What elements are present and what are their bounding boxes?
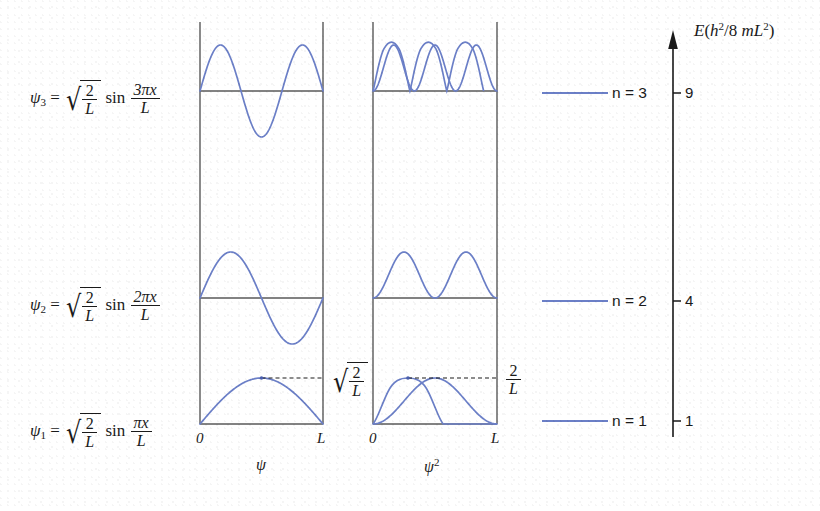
- psi-panel-tick-0: 0: [196, 430, 204, 447]
- psi3-symbol: ψ: [30, 88, 41, 107]
- psi3-index: 3: [41, 96, 47, 108]
- psi-panel-axis-title: ψ: [256, 456, 266, 474]
- psi-amplitude-den: L: [349, 382, 364, 399]
- psi-squared-axis-exp: 2: [434, 456, 440, 468]
- psi-squared-amplitude-num: 2: [506, 362, 521, 380]
- psi1-radical: √2L: [64, 413, 101, 451]
- psi-amplitude-num: 2: [349, 364, 364, 382]
- energy-level-label-n3: n = 3: [612, 84, 647, 102]
- psi1-equals: =: [50, 421, 60, 440]
- equation-psi3: ψ3 = √2L sin 3πxL: [30, 80, 161, 118]
- energy-axis: [668, 30, 681, 437]
- psi3-argument: 3πxL: [131, 81, 160, 117]
- equation-psi1: ψ1 = √2L sin πxL: [30, 413, 153, 451]
- equation-psi2: ψ2 = √2L sin 2πxL: [30, 287, 161, 325]
- psi1-squared-curve-fit: [373, 378, 497, 424]
- psi3-equals: =: [50, 88, 60, 107]
- psi1-trig: sin: [105, 421, 125, 440]
- psi3-radical-den: L: [82, 100, 97, 117]
- energy-axis-title-L: L: [754, 21, 763, 40]
- energy-level-label-n1: n = 1: [612, 412, 647, 430]
- psi-squared-panel-tick-0: 0: [369, 430, 377, 447]
- psi-squared-panel-frame: [373, 22, 497, 424]
- psi3-radical-num: 2: [82, 82, 97, 100]
- energy-axis-title-E: E: [694, 21, 704, 40]
- psi-panel-tick-L: L: [317, 430, 325, 447]
- energy-tick-label-9: 9: [685, 84, 693, 101]
- psi2-index: 2: [41, 303, 47, 315]
- energy-axis-title-h: h: [710, 21, 719, 40]
- psi1-arg-num: πx: [131, 414, 152, 432]
- psi1-radical-den: L: [82, 433, 97, 450]
- psi3-radical: √2L: [64, 80, 101, 118]
- psi2-argument: 2πxL: [131, 288, 160, 324]
- psi2-arg-num: 2πx: [131, 288, 160, 306]
- psi2-symbol: ψ: [30, 295, 41, 314]
- psi1-radical-num: 2: [82, 415, 97, 433]
- psi3-arg-num: 3πx: [131, 81, 160, 99]
- psi2-radical: √2L: [64, 287, 101, 325]
- psi2-squared-curve: [373, 252, 497, 298]
- particle-in-a-box-figure: ψ3 = √2L sin 3πxL ψ2 = √2L sin 2πxL ψ1 =…: [0, 0, 820, 511]
- psi2-radical-num: 2: [82, 289, 97, 307]
- energy-axis-arrowhead: [668, 30, 678, 49]
- psi1-index: 1: [41, 429, 47, 441]
- psi-squared-panel-axis-title: ψ2: [424, 456, 439, 476]
- energy-level-label-n2: n = 2: [612, 292, 647, 310]
- psi-squared-amplitude-annotation: 2L: [505, 362, 522, 398]
- psi-squared-axis-base: ψ: [424, 458, 434, 475]
- psi1-curve: [200, 378, 323, 424]
- energy-tick-label-1: 1: [685, 412, 693, 429]
- psi-squared-panel-tick-L: L: [491, 430, 499, 447]
- energy-axis-title-close: ): [769, 21, 775, 40]
- psi1-symbol: ψ: [30, 421, 41, 440]
- psi3-arg-den: L: [131, 99, 160, 116]
- energy-axis-title: E(h2/8 mL2): [694, 20, 774, 41]
- psi2-arg-den: L: [131, 306, 160, 323]
- psi2-equals: =: [50, 295, 60, 314]
- energy-axis-title-m: m: [742, 21, 754, 40]
- psi1-arg-den: L: [131, 432, 152, 449]
- psi-amplitude-annotation: √2L: [331, 362, 368, 400]
- energy-tick-label-4: 4: [685, 292, 693, 309]
- psi-panel-frame: [200, 22, 323, 424]
- psi1-argument: πxL: [131, 414, 152, 450]
- psi1-peak-marker: [260, 376, 264, 380]
- psi2-radical-den: L: [82, 307, 97, 324]
- psi1-squared-peak-marker: [406, 376, 410, 380]
- energy-axis-title-slash8: /8: [724, 21, 737, 40]
- psi3-trig: sin: [105, 88, 125, 107]
- psi-squared-amplitude-den: L: [506, 380, 521, 397]
- psi2-trig: sin: [105, 295, 125, 314]
